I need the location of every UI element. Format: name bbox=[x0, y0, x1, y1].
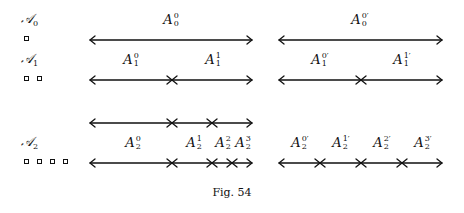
label-scripts: 22 bbox=[226, 135, 231, 151]
label-base: A bbox=[205, 52, 214, 67]
interval-label-a1-1prime: A1′1 bbox=[393, 52, 410, 68]
label-sub: 2 bbox=[136, 143, 141, 151]
interval-label-a1-0prime: A0′1 bbox=[311, 52, 328, 68]
row-label-base: 𝒜 bbox=[21, 11, 33, 26]
interval-label-a2-0: A02 bbox=[125, 135, 140, 151]
interval-label-a0-0: A00 bbox=[163, 12, 178, 28]
label-sub: 2 bbox=[302, 143, 309, 151]
label-sub: 1 bbox=[404, 60, 411, 68]
label-sub: 2 bbox=[425, 143, 432, 151]
label-sub: 0 bbox=[174, 20, 179, 28]
interval-label-a2-3: A32 bbox=[235, 135, 250, 151]
label-scripts: 0′0 bbox=[362, 12, 369, 28]
label-base: A bbox=[332, 135, 341, 150]
label-base: A bbox=[235, 135, 244, 150]
label-base: A bbox=[393, 52, 402, 67]
row-label-base: 𝒜 bbox=[21, 51, 33, 66]
label-scripts: 12 bbox=[197, 135, 202, 151]
label-sub: 0 bbox=[362, 20, 369, 28]
label-scripts: 02 bbox=[136, 135, 141, 151]
interval-label-a2-1prime: A1′2 bbox=[332, 135, 349, 151]
row-label-a1: 𝒜1 bbox=[21, 52, 38, 68]
square-icon bbox=[63, 159, 68, 164]
row-a0-right-interval bbox=[279, 36, 442, 44]
label-sub: 1 bbox=[322, 60, 329, 68]
interval-label-a0-0prime: A0′0 bbox=[351, 12, 368, 28]
label-base: A bbox=[311, 52, 320, 67]
row-label-a0: 𝒜0 bbox=[21, 12, 38, 28]
label-scripts: 2′2 bbox=[384, 135, 391, 151]
label-sub: 2 bbox=[197, 143, 202, 151]
row-label-sub: 0 bbox=[33, 19, 38, 28]
label-base: A bbox=[351, 12, 360, 27]
row-label-a2: 𝒜2 bbox=[21, 135, 38, 151]
label-base: A bbox=[215, 135, 224, 150]
label-base: A bbox=[291, 135, 300, 150]
label-base: A bbox=[373, 135, 382, 150]
label-scripts: 1′1 bbox=[404, 52, 411, 68]
interval-label-a2-2: A22 bbox=[215, 135, 230, 151]
label-scripts: 1′2 bbox=[343, 135, 350, 151]
interval-label-a2-3prime: A3′2 bbox=[414, 135, 431, 151]
square-icon bbox=[24, 76, 29, 81]
label-base: A bbox=[125, 135, 134, 150]
row-a1-right-intervals bbox=[279, 76, 442, 84]
row-label-sub: 2 bbox=[33, 142, 38, 151]
interval-label-a2-1: A12 bbox=[186, 135, 201, 151]
interval-label-a2-2prime: A2′2 bbox=[373, 135, 390, 151]
label-sub: 1 bbox=[216, 60, 221, 68]
row-a2-left-intervals bbox=[90, 159, 252, 167]
label-scripts: 00 bbox=[174, 12, 179, 28]
square-icon bbox=[37, 159, 42, 164]
interval-label-a2-0prime: A0′2 bbox=[291, 135, 308, 151]
label-scripts: 32 bbox=[246, 135, 251, 151]
label-scripts: 3′2 bbox=[425, 135, 432, 151]
label-base: A bbox=[123, 52, 132, 67]
intermediate-subdivision bbox=[90, 119, 252, 127]
label-base: A bbox=[414, 135, 423, 150]
label-sub: 2 bbox=[246, 143, 251, 151]
row-a0-left-interval bbox=[90, 36, 252, 44]
square-icon bbox=[50, 159, 55, 164]
label-scripts: 11 bbox=[216, 52, 221, 68]
label-base: A bbox=[186, 135, 195, 150]
row-label-base: 𝒜 bbox=[21, 134, 33, 149]
square-icon bbox=[24, 159, 29, 164]
label-base: A bbox=[163, 12, 172, 27]
row-label-sub: 1 bbox=[33, 59, 38, 68]
row-a2-right-intervals bbox=[279, 159, 442, 167]
square-icon bbox=[24, 36, 29, 41]
figure-caption: Fig. 54 bbox=[0, 186, 464, 199]
interval-label-a1-0: A01 bbox=[123, 52, 138, 68]
label-sub: 2 bbox=[343, 143, 350, 151]
label-sub: 2 bbox=[226, 143, 231, 151]
label-sub: 2 bbox=[384, 143, 391, 151]
interval-label-a1-1: A11 bbox=[205, 52, 220, 68]
row-a1-left-intervals bbox=[90, 76, 252, 84]
label-scripts: 01 bbox=[134, 52, 139, 68]
label-scripts: 0′2 bbox=[302, 135, 309, 151]
nested-intervals-diagram bbox=[0, 0, 464, 213]
label-sub: 1 bbox=[134, 60, 139, 68]
label-scripts: 0′1 bbox=[322, 52, 329, 68]
square-icon bbox=[37, 76, 42, 81]
